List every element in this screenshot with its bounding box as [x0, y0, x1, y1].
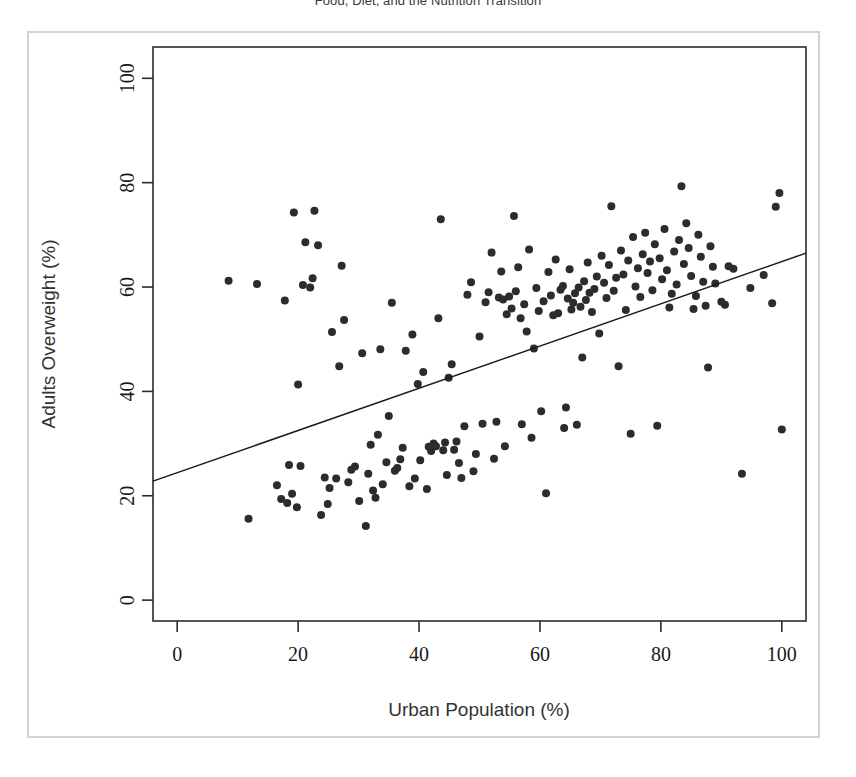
data-point	[434, 314, 442, 322]
data-point	[658, 275, 666, 283]
data-point	[358, 349, 366, 357]
scatter-plot: 020406080100 020406080100 Urban Populati…	[0, 0, 856, 777]
data-point	[338, 262, 346, 270]
data-point	[598, 252, 606, 260]
data-point	[721, 301, 729, 309]
data-point	[340, 316, 348, 324]
data-point	[335, 362, 343, 370]
data-point	[367, 441, 375, 449]
data-point	[416, 456, 424, 464]
data-point	[467, 278, 475, 286]
data-point	[677, 182, 685, 190]
data-point	[517, 314, 525, 322]
data-point	[668, 290, 676, 298]
data-point	[578, 353, 586, 361]
data-point	[388, 299, 396, 307]
data-point	[593, 273, 601, 281]
data-point	[525, 245, 533, 253]
data-point	[328, 328, 336, 336]
data-point	[476, 333, 484, 341]
data-point	[595, 329, 603, 337]
data-point	[253, 280, 261, 288]
data-point	[374, 431, 382, 439]
data-point	[617, 247, 625, 255]
data-point	[656, 254, 664, 262]
data-point	[490, 455, 498, 463]
data-point	[460, 422, 468, 430]
data-point	[457, 474, 465, 482]
data-point	[544, 268, 552, 276]
data-point	[567, 305, 575, 313]
data-point	[605, 261, 613, 269]
data-point	[372, 494, 380, 502]
data-point	[482, 298, 490, 306]
x-tick-label: 100	[767, 643, 797, 665]
data-point	[704, 363, 712, 371]
data-point	[355, 497, 363, 505]
data-point	[414, 380, 422, 388]
data-point	[314, 241, 322, 249]
data-point	[687, 272, 695, 280]
data-point	[523, 327, 531, 335]
data-point	[663, 266, 671, 274]
data-point	[639, 250, 647, 258]
y-tick-label: 100	[116, 63, 138, 93]
data-point	[309, 274, 317, 282]
data-point	[631, 283, 639, 291]
data-point	[699, 278, 707, 286]
data-point	[682, 219, 690, 227]
data-point	[297, 462, 305, 470]
data-point	[508, 304, 516, 312]
data-point	[364, 470, 372, 478]
data-point	[245, 515, 253, 523]
y-axis-title: Adults Overweight (%)	[38, 239, 59, 428]
data-point	[775, 189, 783, 197]
y-tick-label: 0	[116, 595, 138, 605]
x-tick-label: 40	[409, 643, 429, 665]
data-point	[607, 202, 615, 210]
data-point	[537, 407, 545, 415]
data-points	[225, 182, 786, 530]
data-point	[612, 274, 620, 282]
data-point	[443, 471, 451, 479]
data-point	[768, 299, 776, 307]
data-point	[634, 264, 642, 272]
data-point	[399, 444, 407, 452]
data-point	[584, 259, 592, 267]
data-point	[547, 291, 555, 299]
x-tick-label: 80	[651, 643, 671, 665]
data-point	[690, 305, 698, 313]
x-axis-title: Urban Population (%)	[388, 699, 570, 720]
data-point	[559, 282, 567, 290]
data-point	[369, 487, 377, 495]
data-point	[527, 434, 535, 442]
data-point	[566, 265, 574, 273]
data-point	[288, 490, 296, 498]
data-point	[408, 331, 416, 339]
data-point	[411, 475, 419, 483]
data-point	[622, 306, 630, 314]
data-point	[294, 381, 302, 389]
data-point	[497, 267, 505, 275]
y-tick-label: 60	[116, 277, 138, 297]
data-point	[582, 296, 590, 304]
data-point	[273, 481, 281, 489]
data-point	[542, 489, 550, 497]
y-tick-label: 40	[116, 381, 138, 401]
data-point	[665, 303, 673, 311]
data-point	[675, 236, 683, 244]
data-point	[588, 308, 596, 316]
data-point	[573, 421, 581, 429]
x-axis-tick-labels: 020406080100	[172, 643, 797, 665]
data-point	[673, 280, 681, 288]
data-point	[729, 265, 737, 273]
data-point	[317, 511, 325, 519]
x-tick-label: 60	[530, 643, 550, 665]
data-point	[376, 345, 384, 353]
data-point	[385, 412, 393, 420]
x-tick-label: 20	[288, 643, 308, 665]
data-point	[362, 522, 370, 530]
data-point	[306, 284, 314, 292]
data-point	[562, 404, 570, 412]
data-point	[702, 302, 710, 310]
